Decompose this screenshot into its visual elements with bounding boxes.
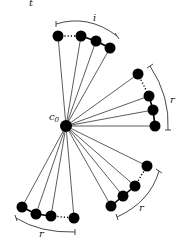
leaf-node (76, 31, 87, 42)
leaf-node (69, 213, 80, 224)
edge (66, 126, 147, 166)
leaf-node (53, 31, 64, 42)
leaf-node (130, 181, 141, 192)
edge (66, 110, 153, 126)
leaf-node (150, 121, 161, 132)
brace-bottom-left (16, 218, 75, 232)
center-label: c0 (49, 111, 60, 124)
edge (66, 126, 135, 186)
nodes (17, 31, 161, 224)
edge (66, 41, 96, 126)
braces (15, 21, 171, 235)
edge (66, 126, 123, 196)
group-label-top: i (93, 12, 96, 23)
star-graph-diagram: t c0 irrr (0, 0, 185, 250)
leaf-node (133, 69, 144, 80)
edge (66, 126, 111, 206)
group-label-bottom-right: r (139, 202, 145, 213)
brace-tick (147, 64, 153, 68)
leaf-node (31, 209, 42, 220)
leaf-node (144, 91, 155, 102)
group-label-right: r (170, 94, 176, 105)
edge (36, 126, 66, 214)
center-node (60, 120, 72, 132)
leaf-node (91, 36, 102, 47)
edge (66, 126, 74, 218)
leaf-node (46, 211, 57, 222)
brace-tick (115, 33, 119, 39)
leaf-node (142, 161, 153, 172)
edge (58, 36, 66, 126)
leaf-node (106, 201, 117, 212)
leaf-node (17, 202, 28, 213)
leaf-node (105, 43, 116, 54)
figure-label: t (29, 0, 34, 8)
edge (66, 96, 149, 126)
leaf-node (148, 105, 159, 116)
edge (66, 74, 138, 126)
brace-top (56, 21, 117, 36)
leaf-node (118, 191, 129, 202)
